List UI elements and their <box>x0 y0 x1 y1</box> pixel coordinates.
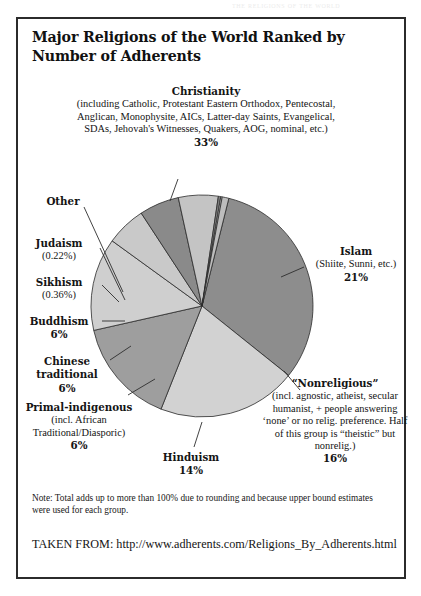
label-christianity-name: Christianity <box>172 85 240 97</box>
label-buddhism-name: Buddhism <box>30 315 89 327</box>
label-hinduism-value: 14% <box>179 464 203 476</box>
label-nonreligious-detail: (incl. agnostic, atheist, secular humani… <box>263 390 408 451</box>
label-chinese-traditional-name: Chinese traditional <box>36 355 98 380</box>
label-buddhism-value: 6% <box>51 328 68 340</box>
label-hinduism: Hinduism 14% <box>146 451 236 478</box>
figure-box: Major Religions of the World Ranked by N… <box>16 17 406 579</box>
label-primal-indigenous-detail: (incl. African Traditional/Diasporic) <box>33 414 126 437</box>
label-islam-detail: (Shiite, Sunni, etc.) <box>316 258 397 269</box>
label-sikhism-name: Sikhism <box>36 276 83 288</box>
label-christianity-value: 33% <box>194 136 218 148</box>
figure-source: TAKEN FROM: http://www.adherents.com/Rel… <box>32 537 400 553</box>
label-sikhism: Sikhism (0.36%) <box>16 276 102 302</box>
label-judaism: Judaism (0.22%) <box>16 237 102 263</box>
label-primal-indigenous-name: Primal-indigenous <box>26 401 133 413</box>
label-nonreligious-value: 16% <box>323 452 347 464</box>
label-judaism-value: (0.22%) <box>42 250 76 261</box>
label-islam: Islam (Shiite, Sunni, etc.) 21% <box>306 245 406 284</box>
label-other-name: Other <box>46 195 79 207</box>
label-primal-indigenous: Primal-indigenous (incl. African Traditi… <box>14 401 144 453</box>
label-hinduism-name: Hinduism <box>163 451 219 463</box>
label-christianity: Christianity (including Catholic, Protes… <box>66 85 346 149</box>
scan-page-header: the religions of the world <box>232 1 410 10</box>
label-chinese-traditional-value: 6% <box>59 382 76 394</box>
label-judaism-name: Judaism <box>36 237 83 249</box>
label-sikhism-value: (0.36%) <box>42 289 76 300</box>
label-nonreligious-name: “Nonreligious” <box>292 377 379 389</box>
label-buddhism: Buddhism 6% <box>16 315 102 342</box>
label-other: Other <box>22 195 104 208</box>
label-islam-value: 21% <box>344 271 368 283</box>
label-christianity-detail: (including Catholic, Protestant Eastern … <box>77 98 336 134</box>
figure-note: Note: Total adds up to more than 100% du… <box>32 492 388 517</box>
label-islam-name: Islam <box>340 245 372 257</box>
label-chinese-traditional: Chinese traditional 6% <box>24 355 110 395</box>
label-nonreligious: “Nonreligious” (incl. agnostic, atheist,… <box>262 377 408 466</box>
label-primal-indigenous-value: 6% <box>71 439 88 451</box>
